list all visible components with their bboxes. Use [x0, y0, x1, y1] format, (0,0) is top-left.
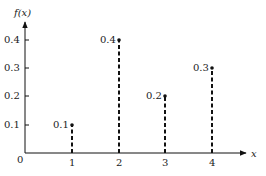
y-tick-label: 0.4: [4, 34, 20, 45]
point-label: 0.1: [53, 119, 69, 130]
x-ticks: 1 2 3 4: [69, 157, 215, 168]
point-marker: [117, 38, 121, 42]
point-marker: [163, 94, 167, 98]
origin-label: 0: [17, 154, 23, 165]
y-tick-label: 0.1: [4, 119, 20, 130]
point-labels: 0.1 0.4 0.2 0.3: [53, 34, 209, 130]
point-marker: [70, 123, 74, 127]
x-tick-label: 3: [162, 157, 168, 168]
x-axis-label: x: [251, 148, 257, 159]
x-tick-label: 1: [69, 157, 75, 168]
point-label: 0.4: [100, 34, 116, 45]
x-tick-label: 2: [116, 157, 122, 168]
stem-chart: f(x) x 0 0.1 0.2 0.3 0.4 1 2 3 4 0.1 0.4…: [0, 0, 266, 176]
point-label: 0.3: [193, 62, 209, 73]
stems: [72, 40, 212, 153]
point-marker: [210, 66, 214, 70]
point-label: 0.2: [146, 90, 162, 101]
y-axis-label: f(x): [13, 7, 31, 18]
x-tick-label: 4: [209, 157, 215, 168]
y-tick-label: 0.3: [4, 62, 20, 73]
points: [70, 38, 214, 127]
y-tick-label: 0.2: [4, 90, 20, 101]
